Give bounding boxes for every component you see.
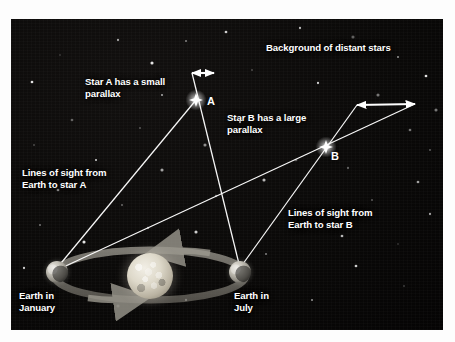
sight-line-earth_july-to-star_b xyxy=(240,105,357,268)
star-b-letter: B xyxy=(331,150,339,162)
parallax-diagram: Background of distant stars Star A has a… xyxy=(0,0,455,342)
parallax-arrow-group xyxy=(192,73,415,105)
sight-line-earth_january-to-star_b xyxy=(57,104,415,270)
sight-lines-layer xyxy=(0,0,455,342)
earth-july-globe xyxy=(229,261,251,283)
sight-line-earth_january-to-star_a xyxy=(57,100,196,268)
sight-line-group xyxy=(57,73,415,270)
earth-january-globe xyxy=(46,261,68,283)
star-a-letter: A xyxy=(207,95,215,107)
parallax-arrow-star-b xyxy=(357,104,415,105)
sun xyxy=(127,253,173,299)
